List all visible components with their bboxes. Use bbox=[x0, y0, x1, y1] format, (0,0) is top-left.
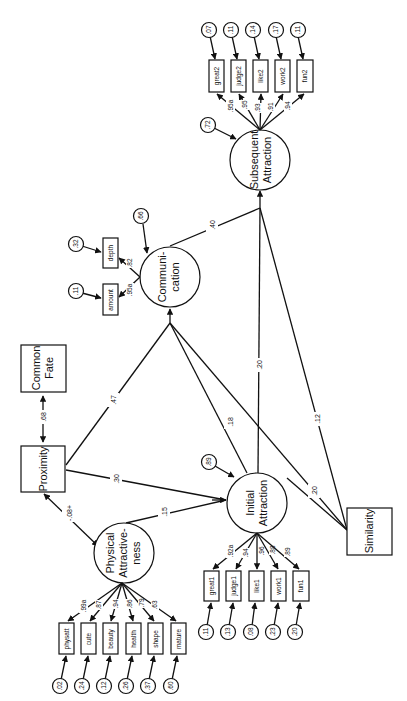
coef-similarity-subsequent: .12 bbox=[314, 414, 321, 424]
initial-indicators: great1 .11 .92a judge1 .13 .94 like1 .08… bbox=[199, 533, 310, 640]
svg-text:judge2: judge2 bbox=[235, 66, 243, 87]
svg-text:.94: .94 bbox=[112, 599, 119, 608]
indicator-like2: like2 .14 .93 bbox=[246, 23, 269, 131]
coef-proximity-initial: .30 bbox=[113, 474, 120, 484]
physical-indicators: physatt .02 .99a cute .24 .87 beauty .12… bbox=[53, 583, 187, 694]
svg-text:.08: .08 bbox=[247, 627, 254, 636]
subsequent-indicators: great2 .07 .95a judge2 .11 .95 like2 .14 bbox=[202, 23, 314, 131]
node-similarity: Similarity bbox=[347, 508, 392, 555]
svg-text:ness: ness bbox=[130, 541, 142, 565]
svg-text:.11: .11 bbox=[227, 25, 234, 34]
svg-text:work1: work1 bbox=[275, 577, 282, 596]
svg-text:.17: .17 bbox=[272, 25, 279, 34]
path-initial-subsequent bbox=[258, 208, 260, 473]
svg-text:fun1: fun1 bbox=[297, 579, 304, 592]
svg-text:great1: great1 bbox=[208, 576, 216, 595]
svg-text:.95: .95 bbox=[241, 100, 248, 109]
node-common-fate: Common Fate bbox=[21, 345, 66, 392]
svg-text:.96: .96 bbox=[258, 546, 265, 555]
indicator-beauty: beauty .12 .94 bbox=[97, 583, 123, 694]
svg-text:.02: .02 bbox=[56, 681, 63, 690]
svg-text:.12: .12 bbox=[100, 681, 107, 690]
indicator-amount: amount .11 .95a bbox=[69, 277, 141, 315]
svg-text:.11: .11 bbox=[202, 627, 209, 636]
svg-text:.86: .86 bbox=[126, 599, 133, 608]
svg-text:cute: cute bbox=[85, 632, 92, 645]
svg-text:.95a: .95a bbox=[126, 283, 133, 296]
coef-initial-communication: .18 bbox=[227, 417, 234, 427]
indicator-depth: depth .32 .82 bbox=[69, 237, 141, 278]
svg-text:.60: .60 bbox=[167, 681, 174, 690]
svg-text:mature: mature bbox=[175, 629, 182, 650]
node-communication: Communi- cation bbox=[140, 247, 200, 307]
svg-text:.82: .82 bbox=[126, 258, 133, 267]
disturbance-subsequent: .72 bbox=[201, 118, 237, 140]
svg-text:.11: .11 bbox=[72, 286, 79, 295]
svg-text:Attraction: Attraction bbox=[257, 480, 269, 526]
svg-text:Attractive-: Attractive- bbox=[117, 528, 129, 578]
svg-text:Subsequent: Subsequent bbox=[248, 131, 260, 190]
svg-text:.79: .79 bbox=[138, 598, 145, 607]
svg-text:judge1: judge1 bbox=[230, 576, 238, 597]
svg-text:.92a: .92a bbox=[227, 544, 234, 557]
svg-text:.66: .66 bbox=[137, 211, 144, 220]
svg-text:like2: like2 bbox=[257, 69, 264, 83]
svg-text:Attraction: Attraction bbox=[261, 137, 273, 183]
svg-text:.91: .91 bbox=[267, 102, 274, 111]
node-initial-attraction: Initial Attraction bbox=[227, 473, 287, 533]
svg-text:work2: work2 bbox=[279, 67, 286, 86]
svg-text:Similarity: Similarity bbox=[363, 508, 375, 553]
svg-text:cation: cation bbox=[169, 262, 181, 291]
svg-text:.13: .13 bbox=[224, 627, 231, 636]
svg-text:shape: shape bbox=[152, 630, 160, 648]
svg-text:Common: Common bbox=[30, 346, 42, 391]
svg-text:.11: .11 bbox=[294, 25, 301, 34]
svg-text:.72: .72 bbox=[204, 120, 211, 129]
svg-text:.95a: .95a bbox=[227, 99, 234, 112]
communication-indicators: depth .32 .82 amount .11 .95a bbox=[69, 237, 141, 316]
node-physical-attractiveness: Physical Attractive- ness bbox=[94, 523, 154, 583]
svg-text:.32: .32 bbox=[72, 239, 79, 248]
path-diagram: .68 -.08+ .47 .18 .30 .15 .20 .40 bbox=[0, 0, 407, 701]
svg-text:like1: like1 bbox=[253, 579, 260, 593]
svg-text:.89: .89 bbox=[284, 547, 291, 556]
coef-commonfate-proximity: .68 bbox=[40, 412, 47, 422]
svg-text:Proximity: Proximity bbox=[37, 446, 49, 492]
svg-text:Initial: Initial bbox=[244, 490, 256, 516]
coef-proximity-communication: .47 bbox=[110, 395, 117, 405]
coef-physical-initial: .15 bbox=[161, 507, 168, 517]
svg-text:beauty: beauty bbox=[107, 628, 115, 648]
svg-text:.23: .23 bbox=[269, 627, 276, 636]
svg-text:physatt: physatt bbox=[63, 628, 71, 649]
coef-communication-subsequent: .40 bbox=[209, 220, 216, 230]
svg-text:.89: .89 bbox=[205, 457, 212, 466]
coef-initial-subsequent: .20 bbox=[256, 360, 263, 370]
node-subsequent-attraction: Subsequent Attraction bbox=[230, 130, 290, 190]
svg-text:.93: .93 bbox=[254, 103, 261, 112]
svg-text:.87: .87 bbox=[95, 600, 102, 609]
disturbance-communication: .66 bbox=[134, 209, 149, 254]
path-proximity-initial bbox=[66, 470, 226, 500]
svg-text:amount: amount bbox=[107, 289, 114, 311]
coef-similarity-initial: .20 bbox=[311, 486, 318, 496]
path-physical-initial bbox=[126, 500, 226, 523]
svg-text:great2: great2 bbox=[213, 66, 221, 85]
svg-text:.20: .20 bbox=[291, 627, 298, 636]
svg-text:.26: .26 bbox=[122, 681, 129, 690]
svg-text:health: health bbox=[130, 630, 137, 648]
svg-text:.37: .37 bbox=[144, 681, 151, 690]
svg-text:.24: .24 bbox=[78, 681, 85, 690]
svg-text:Fate: Fate bbox=[43, 357, 55, 379]
svg-text:.14: .14 bbox=[249, 25, 256, 34]
svg-text:Communi-: Communi- bbox=[156, 251, 168, 302]
disturbance-initial: .89 bbox=[202, 455, 235, 478]
svg-text:.63: .63 bbox=[151, 600, 158, 609]
path-initial-communication bbox=[170, 323, 247, 473]
svg-text:fun2: fun2 bbox=[301, 69, 308, 82]
svg-text:.94: .94 bbox=[242, 548, 249, 557]
svg-text:.99a: .99a bbox=[80, 599, 87, 612]
svg-text:depth: depth bbox=[107, 244, 115, 261]
node-proximity: Proximity bbox=[21, 446, 65, 492]
svg-text:.94: .94 bbox=[284, 101, 291, 110]
svg-text:.07: .07 bbox=[205, 25, 212, 34]
